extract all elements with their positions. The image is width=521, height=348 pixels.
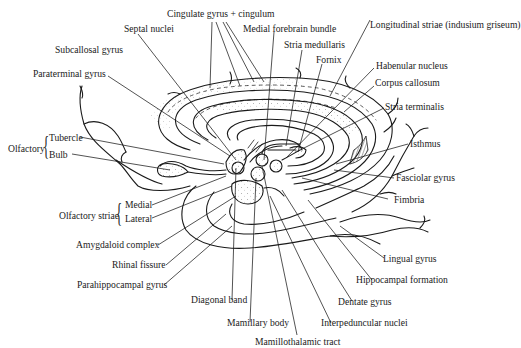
label-parahippocampal-gyrus: Parahippocampal gyrus [77,279,167,290]
amygdala-shape [232,180,263,204]
label-medial-striae: Medial [125,199,152,210]
label-medial-forebrain-bundle: Medial forebrain bundle [243,23,336,34]
label-olfactory: Olfactory [8,143,45,154]
label-dentate-gyrus: Dentate gyrus [338,296,392,307]
label-longitudinal-striae: Longitudinal striae (indusium griseum) [370,19,521,30]
label-lingual-gyrus: Lingual gyrus [383,253,437,264]
label-septal-nuclei: Septal nuclei [124,23,174,34]
label-stria-terminalis: Stria terminalis [385,101,444,112]
label-cingulate-gyrus: Cingulate gyrus + cingulum [167,8,274,19]
label-interpeduncular-nuclei: Interpeduncular nuclei [321,317,408,328]
label-subcallosal-gyrus: Subcallosal gyrus [55,44,123,55]
label-rhinal-fissure: Rhinal fissure [112,259,166,270]
label-habenular-nucleus: Habenular nucleus [376,60,448,71]
habenular-body [256,154,268,166]
label-olfactory-striae: Olfactory striae [59,210,119,221]
label-hippocampal-formation: Hippocampal formation [356,274,448,285]
label-fasciolar-gyrus: Fasciolar gyrus [396,172,455,183]
label-fornix: Fornix [316,54,342,65]
label-stria-medullaris: Stria medullaris [284,39,345,50]
label-corpus-callosum: Corpus callosum [375,77,440,88]
label-paraterminal-gyrus: Paraterminal gyrus [33,68,106,79]
olfactory-bulb-shape [158,163,189,176]
label-mamillary-body: Mamillary body [227,317,289,328]
label-isthmus: Isthmus [410,138,440,149]
label-mamillothalamic-tract: Mamillothalamic tract [255,336,341,347]
label-lateral-striae: Lateral [125,213,152,224]
label-diagonal-band: Diagonal band [191,294,247,305]
olfactory-striae-brace: { [116,199,122,227]
label-olfactory-tubercle: Tubercle [49,132,83,143]
label-amygdaloid-complex: Amygdaloid complex [76,239,159,250]
label-olfactory-bulb: Bulb [49,149,68,160]
label-fimbria: Fimbria [394,194,424,205]
